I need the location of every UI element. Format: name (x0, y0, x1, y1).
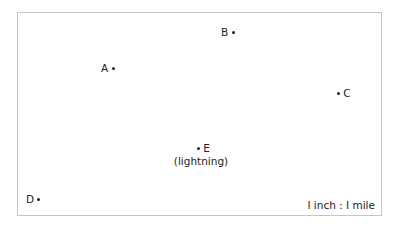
point-e: E (197, 142, 210, 154)
point-c-dot-icon (337, 92, 340, 95)
point-c-label: C (343, 87, 350, 99)
point-b: B (221, 26, 235, 38)
point-b-dot-icon (232, 31, 235, 34)
point-a: A (101, 62, 115, 74)
point-b-label: B (221, 26, 228, 38)
map-frame: A B C D E (lightning) I inch : I mile (17, 12, 382, 216)
point-e-dot-icon (197, 147, 200, 150)
point-d-label: D (26, 193, 34, 205)
point-d: D (26, 193, 40, 205)
point-c: C (337, 87, 351, 99)
point-a-dot-icon (112, 67, 115, 70)
point-e-caption: (lightning) (174, 155, 228, 167)
point-e-label: E (203, 142, 210, 154)
point-a-label: A (101, 62, 108, 74)
scale-label: I inch : I mile (307, 199, 375, 211)
point-d-dot-icon (37, 198, 40, 201)
